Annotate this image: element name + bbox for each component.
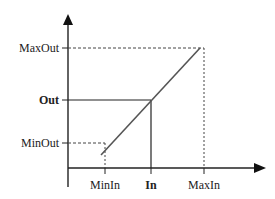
- label-minin: MinIn: [90, 178, 120, 192]
- label-maxin: MaxIn: [188, 178, 220, 192]
- mapping-diagram: MaxOut Out MinOut MinIn In MaxIn: [0, 0, 275, 199]
- y-axis-arrowhead: [63, 14, 73, 25]
- label-out: Out: [39, 93, 59, 107]
- x-axis-arrowhead: [254, 163, 266, 173]
- label-maxout: MaxOut: [19, 41, 60, 55]
- label-minout: MinOut: [21, 136, 60, 150]
- label-in: In: [145, 178, 157, 192]
